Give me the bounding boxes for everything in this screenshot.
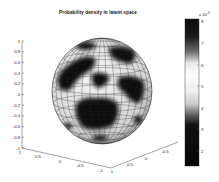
y-tick: 0	[145, 156, 148, 161]
density-sphere	[52, 38, 152, 144]
x-tick: 0.5	[35, 154, 41, 159]
y-tick: 1	[111, 169, 114, 174]
y-axis: 1 0.5 0 -0.5	[111, 142, 178, 174]
x-axis: 1 0.5 0 -0.5 -1	[19, 148, 111, 173]
x-tick: 1	[19, 150, 22, 155]
colorbar-tick: 2	[201, 149, 204, 154]
colorbar-tick: 4	[201, 106, 204, 111]
z-tick: -0.6	[13, 124, 21, 129]
colorbar-tick: 5	[201, 84, 204, 89]
y-tick: 0.5	[127, 162, 133, 167]
y-tick: -0.5	[161, 149, 169, 154]
x-tick: -0.5	[76, 163, 84, 168]
x-tick: 0	[59, 159, 62, 164]
z-tick: -0.8	[13, 135, 21, 140]
z-tick: -0.4	[13, 113, 21, 118]
z-axis: 1 0.8 0.6 0.4 0.2 0 -0.2 -0.4 -0.6 -0.8 …	[13, 39, 24, 151]
z-tick: 0.6	[14, 60, 20, 65]
chart-canvas: 1 0.8 0.6 0.4 0.2 0 -0.2 -0.4 -0.6 -0.8 …	[0, 0, 219, 182]
colorbar-tick: 3	[201, 127, 204, 132]
z-tick: 0.4	[14, 71, 20, 76]
z-tick: 1	[18, 39, 21, 44]
z-tick: 0	[18, 92, 21, 97]
colorbar-tick: 7	[201, 41, 204, 46]
z-tick: 0.2	[14, 81, 20, 86]
x-tick: -1	[99, 168, 103, 173]
colorbar-exponent: x 10-3	[199, 11, 210, 17]
colorbar-tick: 6	[201, 63, 204, 68]
z-tick: -0.2	[13, 103, 21, 108]
z-tick: 0.8	[14, 49, 20, 54]
colorbar-tick: 8	[201, 19, 204, 24]
colorbar: 8 7 6 5 4 3 2 x 10-3	[185, 11, 210, 166]
